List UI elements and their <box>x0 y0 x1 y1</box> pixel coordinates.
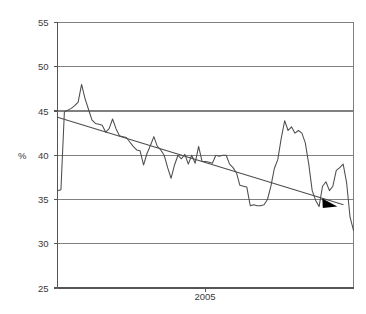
y-tick-label: 45 <box>38 106 49 117</box>
x-tick-label-2005: 2005 <box>194 291 215 302</box>
y-tick-label: 30 <box>38 238 49 249</box>
trend-line <box>58 117 344 205</box>
gridlines-group <box>58 67 354 244</box>
y-tick-label: 40 <box>38 150 49 161</box>
y-tick-labels-group: 25303540455055 <box>38 17 49 294</box>
y-tick-label: 25 <box>38 283 49 294</box>
y-tick-label: 55 <box>38 17 49 28</box>
y-tick-label: 50 <box>38 61 49 72</box>
line-chart: 25303540455055 % 2005 <box>0 0 366 314</box>
y-tick-label: 35 <box>38 194 49 205</box>
y-axis-title: % <box>18 150 27 161</box>
chart-container: 25303540455055 % 2005 <box>0 0 366 314</box>
data-series-line <box>58 84 354 230</box>
